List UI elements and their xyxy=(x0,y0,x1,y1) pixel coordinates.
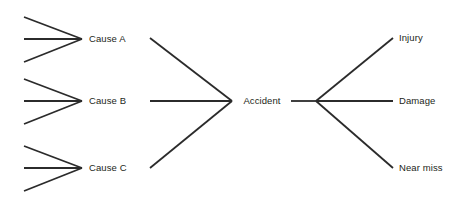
cause-b-subinput-bottom-line xyxy=(24,101,82,124)
bow-tie-diagram: Cause A Cause B Cause C Accident Injury … xyxy=(0,0,470,202)
accident-to-near-miss-line xyxy=(316,101,393,168)
injury-label: Injury xyxy=(399,33,423,43)
cause-to-accident-group xyxy=(150,38,232,168)
cause-a-subinput-bottom-line xyxy=(24,39,82,62)
cause-b-input-group xyxy=(24,79,82,124)
cause-a-subinput-top-line xyxy=(24,17,82,39)
accident-label: Accident xyxy=(243,96,280,106)
cause-c-to-accident-line xyxy=(150,101,232,168)
cause-c-input-group xyxy=(24,146,82,191)
cause-a-input-group xyxy=(24,17,82,62)
cause-c-subinput-bottom-line xyxy=(24,168,82,191)
accident-to-injury-line xyxy=(316,38,393,101)
cause-a-label: Cause A xyxy=(89,34,126,44)
cause-b-label: Cause B xyxy=(89,96,126,106)
accident-to-consequence-group xyxy=(316,38,393,168)
cause-c-label: Cause C xyxy=(89,163,127,173)
cause-b-subinput-top-line xyxy=(24,79,82,101)
cause-c-subinput-top-line xyxy=(24,146,82,168)
damage-label: Damage xyxy=(399,96,436,106)
near-miss-label: Near miss xyxy=(399,163,443,173)
cause-a-to-accident-line xyxy=(150,38,232,101)
